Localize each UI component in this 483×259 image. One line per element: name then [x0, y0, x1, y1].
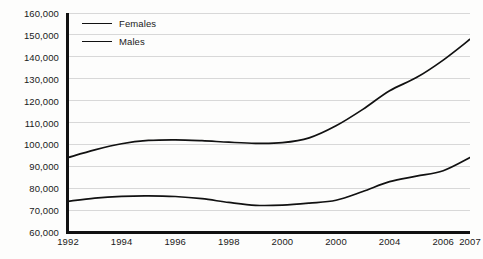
y-axis-tick-label: 150,000 — [24, 29, 59, 40]
series-line-males — [68, 158, 470, 206]
y-axis-labels: 160,000150,000140,000130,000120,000110,0… — [0, 0, 64, 259]
legend-item-males: Males — [82, 36, 156, 47]
x-axis-tick-label: 2000 — [325, 236, 347, 247]
y-axis-tick-label: 110,000 — [25, 117, 59, 128]
y-axis-tick-label: 120,000 — [24, 95, 59, 106]
x-axis-tick-label: 1996 — [164, 236, 186, 247]
x-axis-tick-label: 1998 — [218, 236, 240, 247]
x-axis-tick-label: 2006 — [432, 236, 454, 247]
line-chart: 160,000150,000140,000130,000120,000110,0… — [0, 0, 483, 259]
y-axis-tick-label: 100,000 — [24, 139, 59, 150]
x-axis-tick-label: 2000 — [272, 236, 294, 247]
x-axis-line — [66, 231, 470, 234]
y-axis-tick-label: 140,000 — [24, 51, 59, 62]
legend-item-females: Females — [82, 18, 156, 29]
line-swatch-icon — [82, 41, 112, 42]
x-axis-tick-label: 2007 — [459, 236, 481, 247]
legend-label-males: Males — [119, 36, 145, 47]
legend-label-females: Females — [119, 18, 156, 29]
y-axis-tick-label: 130,000 — [24, 73, 59, 84]
y-axis-tick-label: 90,000 — [29, 161, 59, 172]
y-axis-tick-label: 160,000 — [24, 8, 59, 19]
y-axis-tick-label: 80,000 — [29, 183, 59, 194]
x-axis-labels: 199219941996199820002000200420062007 — [0, 236, 483, 256]
line-swatch-icon — [82, 23, 112, 24]
chart-legend: Females Males — [82, 18, 156, 47]
x-axis-tick-label: 1992 — [57, 236, 79, 247]
y-axis-tick-label: 70,000 — [29, 205, 59, 216]
x-axis-tick-label: 1994 — [111, 236, 133, 247]
x-axis-tick-label: 2004 — [379, 236, 401, 247]
y-axis-line — [66, 13, 69, 233]
